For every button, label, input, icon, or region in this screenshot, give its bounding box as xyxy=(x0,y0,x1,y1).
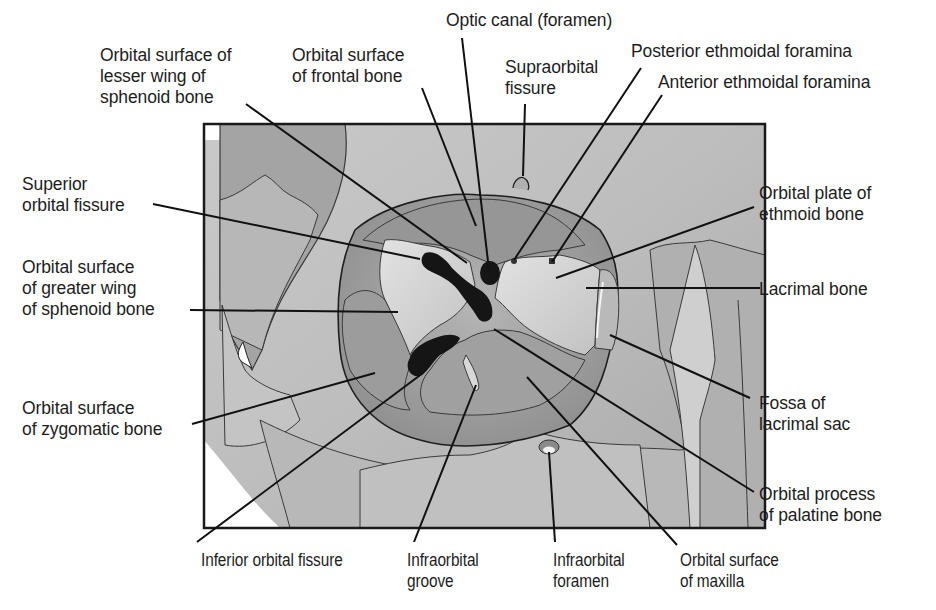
label-ethmoid-plate: Orbital plate of ethmoid bone xyxy=(759,183,871,225)
orbit-diagram: Orbital surface of lesser wing of spheno… xyxy=(0,0,936,610)
label-lesser-wing: Orbital surface of lesser wing of spheno… xyxy=(100,45,231,108)
label-lacrimal-bone: Lacrimal bone xyxy=(759,279,868,300)
label-posterior-ethmoidal-foramina: Posterior ethmoidal foramina xyxy=(631,41,852,62)
label-infraorbital-groove: Infraorbital groove xyxy=(407,550,479,592)
label-infraorbital-foramen: Infraorbital foramen xyxy=(553,550,625,592)
label-frontal-bone: Orbital surface of frontal bone xyxy=(292,45,404,87)
label-superior-orbital-fissure: Superior orbital fissure xyxy=(22,174,125,216)
label-inferior-orbital-fissure: Inferior orbital fissure xyxy=(201,550,343,571)
label-supraorbital-fissure: Supraorbital fissure xyxy=(505,57,598,99)
label-greater-wing: Orbital surface of greater wing of sphen… xyxy=(22,257,155,320)
label-palatine-bone: Orbital process of palatine bone xyxy=(759,484,882,526)
label-optic-canal: Optic canal (foramen) xyxy=(446,10,612,31)
label-anterior-ethmoidal-foramina: Anterior ethmoidal foramina xyxy=(658,72,870,93)
label-maxilla: Orbital surface of maxilla xyxy=(680,550,779,592)
label-zygomatic-bone: Orbital surface of zygomatic bone xyxy=(22,398,162,440)
label-fossa-lacrimal-sac: Fossa of lacrimal sac xyxy=(759,393,850,435)
skull-region xyxy=(204,124,765,528)
